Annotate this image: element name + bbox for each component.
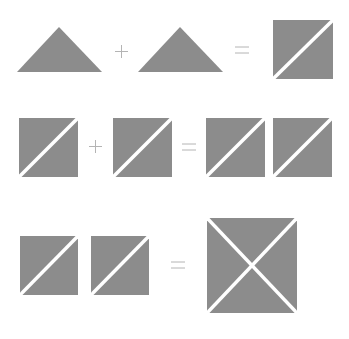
plus-operator (89, 140, 102, 153)
half-square-pair (113, 118, 172, 177)
equals-operator (182, 143, 196, 152)
half-square-pair (273, 20, 333, 79)
triangle-1 (17, 27, 102, 72)
half-square-pair (20, 236, 78, 295)
half-square-pair (91, 236, 149, 295)
half-square-pair (206, 118, 265, 177)
half-square-pair (19, 118, 78, 177)
equals-operator (235, 46, 249, 55)
triangle-2 (138, 27, 223, 72)
plus-operator (115, 45, 128, 58)
quarter-square-x (207, 218, 297, 313)
half-square-pair (273, 118, 332, 177)
equals-operator (171, 261, 185, 270)
